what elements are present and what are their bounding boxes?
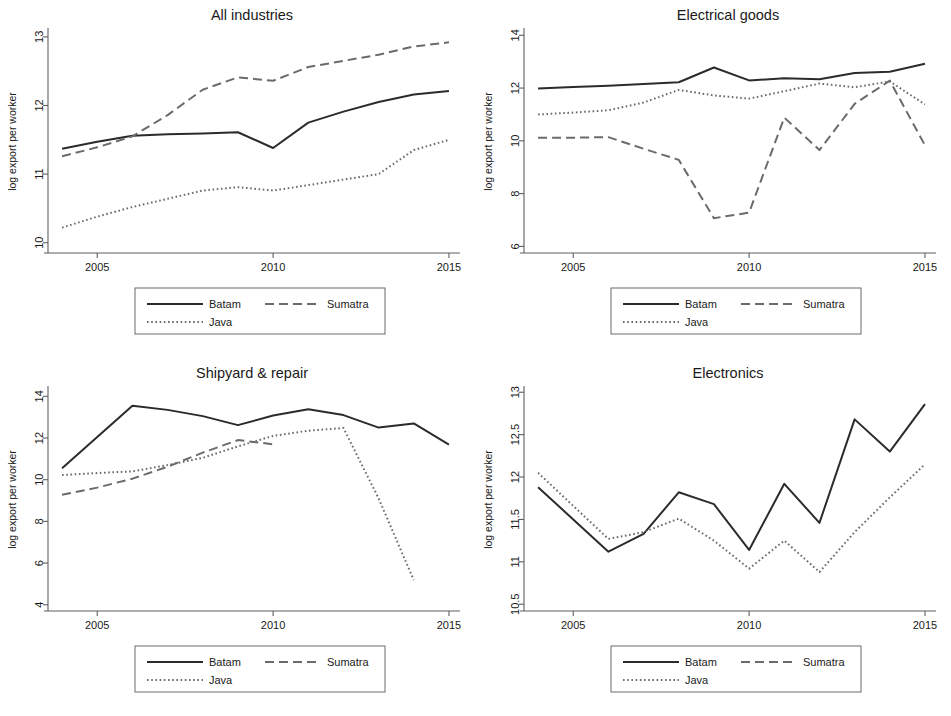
legend-label-java: Java <box>209 316 233 328</box>
y-axis-title: log export per worker <box>482 92 494 191</box>
y-tick-label: 6 <box>33 560 45 566</box>
x-tick-label: 2005 <box>85 261 109 273</box>
legend-box <box>135 288 385 334</box>
y-tick-label: 11.5 <box>509 509 521 530</box>
y-axis-title: log export per worker <box>6 92 18 191</box>
y-tick-label: 12.5 <box>509 424 521 445</box>
y-tick-label: 11 <box>33 168 45 179</box>
y-axis-title: log export per worker <box>482 450 494 549</box>
panel-electrical-goods: Electrical goods68101214200520102015log … <box>476 0 951 358</box>
y-tick-label: 10.5 <box>509 594 521 615</box>
y-tick-label: 12 <box>509 471 521 483</box>
legend: BatamSumatraJava <box>611 288 861 334</box>
series-line-batam <box>538 404 925 552</box>
x-tick-label: 2005 <box>561 619 585 631</box>
y-tick-label: 11 <box>509 556 521 567</box>
legend-label-batam: Batam <box>685 656 717 668</box>
series-line-batam <box>538 64 925 89</box>
y-tick-label: 14 <box>33 390 45 402</box>
y-tick-label: 13 <box>509 386 521 398</box>
legend-label-java: Java <box>685 674 709 686</box>
y-tick-label: 12 <box>33 99 45 111</box>
legend-label-sumatra: Sumatra <box>327 298 369 310</box>
y-tick-label: 13 <box>33 31 45 43</box>
legend-label-sumatra: Sumatra <box>803 298 845 310</box>
y-tick-label: 14 <box>509 29 521 41</box>
legend-label-sumatra: Sumatra <box>327 656 369 668</box>
x-tick-label: 2015 <box>913 619 937 631</box>
x-tick-label: 2015 <box>437 261 461 273</box>
y-axis-title: log export per worker <box>6 450 18 549</box>
y-tick-label: 8 <box>509 191 521 197</box>
chart-all-industries: All industries10111213200520102015log ex… <box>0 0 475 358</box>
legend-box <box>611 288 861 334</box>
series-line-java <box>62 428 414 580</box>
chart-electronics: Electronics10.51111.51212.51320052010201… <box>476 358 951 716</box>
legend-box <box>611 646 861 692</box>
y-tick-label: 4 <box>33 602 45 608</box>
legend-label-batam: Batam <box>209 656 241 668</box>
legend-label-java: Java <box>685 316 709 328</box>
y-tick-label: 12 <box>509 82 521 94</box>
panel-all-industries: All industries10111213200520102015log ex… <box>0 0 475 358</box>
x-tick-label: 2010 <box>737 261 761 273</box>
figure-panel-grid: All industries10111213200520102015log ex… <box>0 0 951 716</box>
legend: BatamSumatraJava <box>135 288 385 334</box>
y-tick-label: 12 <box>33 432 45 444</box>
legend-label-batam: Batam <box>685 298 717 310</box>
y-tick-label: 10 <box>509 135 521 147</box>
x-tick-label: 2010 <box>261 261 285 273</box>
x-tick-label: 2010 <box>261 619 285 631</box>
x-tick-label: 2010 <box>737 619 761 631</box>
chart-shipyard-repair: Shipyard & repair468101214200520102015lo… <box>0 358 475 716</box>
series-line-sumatra <box>538 81 925 218</box>
legend: BatamSumatraJava <box>611 646 861 692</box>
series-line-sumatra <box>62 440 273 495</box>
chart-electrical-goods: Electrical goods68101214200520102015log … <box>476 0 951 358</box>
panel-title: Shipyard & repair <box>196 365 308 381</box>
panel-electronics: Electronics10.51111.51212.51320052010201… <box>476 358 951 716</box>
legend-label-batam: Batam <box>209 298 241 310</box>
legend-label-java: Java <box>209 674 233 686</box>
panel-title: Electrical goods <box>677 7 779 23</box>
y-tick-label: 8 <box>33 518 45 524</box>
legend-box <box>135 646 385 692</box>
panel-title: All industries <box>211 7 293 23</box>
panel-shipyard-repair: Shipyard & repair468101214200520102015lo… <box>0 358 475 716</box>
panel-title: Electronics <box>693 365 764 381</box>
x-tick-label: 2015 <box>913 261 937 273</box>
legend-label-sumatra: Sumatra <box>803 656 845 668</box>
series-line-java <box>62 140 449 228</box>
x-tick-label: 2015 <box>437 619 461 631</box>
legend: BatamSumatraJava <box>135 646 385 692</box>
x-tick-label: 2005 <box>561 261 585 273</box>
y-tick-label: 10 <box>33 237 45 249</box>
series-line-batam <box>62 406 449 469</box>
y-tick-label: 6 <box>509 243 521 249</box>
x-tick-label: 2005 <box>85 619 109 631</box>
series-line-java <box>538 464 925 572</box>
y-tick-label: 10 <box>33 474 45 486</box>
